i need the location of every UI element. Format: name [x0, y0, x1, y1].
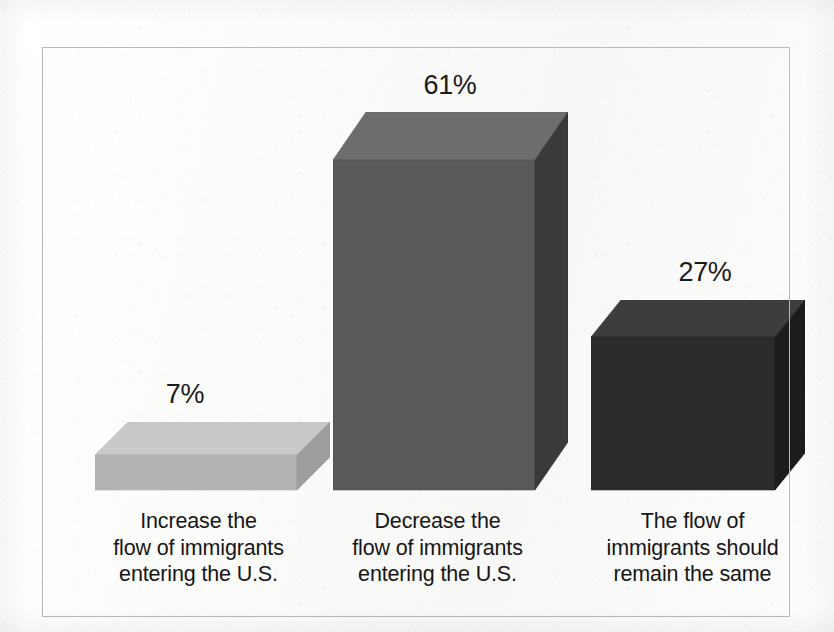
- chart-border-frame: [42, 47, 790, 617]
- chart-page: 7% 61% 27%: [0, 0, 834, 632]
